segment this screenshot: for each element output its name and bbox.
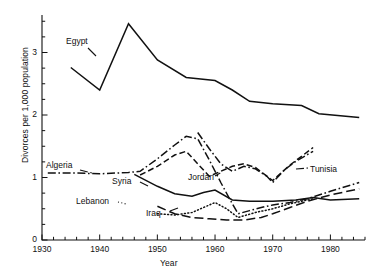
leader-line-tunisia xyxy=(296,168,308,169)
label-leader-lines xyxy=(80,48,308,211)
divorce-rate-line-chart: Divorces per 1,000 population Year 19301… xyxy=(0,0,376,276)
chart-axes xyxy=(42,15,365,240)
y-tick-label-3: 3 xyxy=(24,47,37,57)
x-tick-label-1930: 1930 xyxy=(24,244,60,254)
series-label-syria: Syria xyxy=(112,176,131,186)
chart-canvas xyxy=(0,0,376,276)
series-line-iraq xyxy=(157,189,359,220)
leader-line-egypt xyxy=(88,48,96,56)
chart-series xyxy=(48,24,359,220)
series-line-syria xyxy=(134,174,359,201)
series-label-lebanon: Lebanon xyxy=(76,196,109,206)
x-tick-label-1980: 1980 xyxy=(312,244,348,254)
series-label-egypt: Egypt xyxy=(66,36,88,46)
x-tick-label-1960: 1960 xyxy=(197,244,233,254)
series-line-egypt xyxy=(71,24,359,118)
x-tick-label-1940: 1940 xyxy=(82,244,118,254)
y-tick-label-0: 0 xyxy=(24,234,37,244)
leader-line-lebanon xyxy=(118,202,126,204)
x-tick-label-1950: 1950 xyxy=(139,244,175,254)
x-axis-title: Year xyxy=(160,258,178,268)
series-label-tunisia: Tunisia xyxy=(310,164,337,174)
y-tick-label-2: 2 xyxy=(24,109,37,119)
x-tick-label-1970: 1970 xyxy=(255,244,291,254)
leader-line-syria xyxy=(140,182,148,186)
series-line-tunisia xyxy=(198,133,313,183)
leader-line-iraq xyxy=(170,208,178,211)
series-label-jordan: Jordan xyxy=(188,172,214,182)
series-label-iraq: Iraq xyxy=(146,208,161,218)
series-label-algeria: Algeria xyxy=(46,160,72,170)
y-tick-label-1: 1 xyxy=(24,172,37,182)
